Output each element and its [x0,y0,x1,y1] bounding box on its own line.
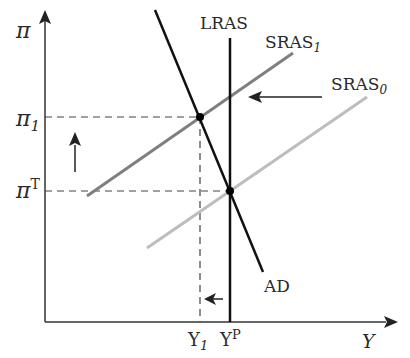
dashed-guides [45,117,230,322]
x-axis-arrow-icon [384,316,398,328]
sras1-curve [87,53,293,196]
lras-label: LRAS [200,13,248,33]
sras1-label: SRAS1 [265,32,321,55]
y-axis [39,10,51,322]
ad-as-diagram: π Y π1 πT Y1 YP LRAS SRAS [0,0,410,358]
y1-label: Y1 [187,329,208,353]
ad-label: AD [263,276,290,296]
pi1-label: π1 [15,106,40,135]
y-axis-label: π [15,18,31,43]
sras0-label: SRAS0 [331,74,387,97]
arrow-left-sras-shift-icon [248,91,322,103]
x-axis [45,316,398,328]
equilibrium-point-long-run [226,187,234,195]
arrow-left-output-icon [204,293,223,305]
x-axis-label: Y [362,330,377,352]
sras0-curve [147,97,367,248]
arrow-up-inflation-icon [69,132,81,172]
yp-label: YP [219,327,241,350]
equilibrium-point-short-run [196,113,204,121]
piT-label: πT [15,176,40,203]
